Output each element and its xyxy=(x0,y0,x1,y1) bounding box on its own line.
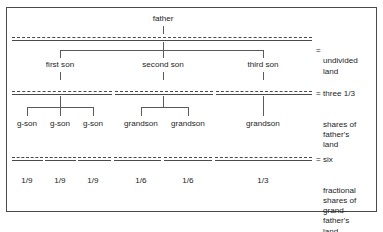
connector-third-son-down xyxy=(263,72,264,80)
connector-second-son-to-bar xyxy=(163,96,164,107)
inheritance-land-division-diagram: father = undivided land first son second… xyxy=(0,0,383,232)
band-solid-rule xyxy=(216,94,312,95)
share-value-4: 1/6 xyxy=(135,176,146,186)
connector-first-son-to-bar xyxy=(60,96,61,107)
connector-first-son-up xyxy=(60,50,61,58)
connector-second-son-up xyxy=(163,50,164,58)
division-band-third-3 xyxy=(216,91,312,95)
band-solid-rule xyxy=(115,94,213,95)
legend-undivided-text: undivided land xyxy=(323,56,380,76)
division-band-third-2 xyxy=(115,91,213,95)
connector-grandson-4-up xyxy=(141,107,142,116)
band-solid-rule xyxy=(215,160,312,161)
band-dashed-rule xyxy=(78,157,111,158)
node-second-son: second son xyxy=(142,60,183,70)
share-value-3: 1/9 xyxy=(87,176,98,186)
connector-third-son-to-grandson xyxy=(263,96,264,116)
division-band-share-5 xyxy=(164,157,212,161)
node-first-son: first son xyxy=(46,60,74,70)
band-solid-rule xyxy=(12,40,312,41)
share-value-5: 1/6 xyxy=(182,176,193,186)
band-solid-rule xyxy=(45,160,76,161)
connector-third-son-up xyxy=(263,50,264,58)
node-grandson-6: grandson xyxy=(246,119,280,129)
legend-equals-sign: = xyxy=(316,89,321,99)
band-dashed-rule xyxy=(12,157,43,158)
node-grandson-5: grandson xyxy=(171,119,205,129)
connector-second-son-down xyxy=(163,72,164,80)
connector-sons-bar xyxy=(60,50,263,51)
connector-first-son-down xyxy=(60,72,61,80)
division-band-undivided xyxy=(12,37,312,41)
node-gson-2: g-son xyxy=(50,119,70,129)
share-value-1: 1/9 xyxy=(21,176,32,186)
node-gson-3: g-son xyxy=(83,119,103,129)
band-solid-rule xyxy=(78,160,111,161)
connector-gson-3-up xyxy=(93,107,94,116)
connector-father-down xyxy=(163,26,164,34)
division-band-share-1 xyxy=(12,157,43,161)
division-band-third-1 xyxy=(12,91,112,95)
division-band-share-4 xyxy=(114,157,161,161)
connector-grandson-5-up xyxy=(188,107,189,116)
connector-grandsons-bar xyxy=(141,107,188,108)
connector-father-to-bar xyxy=(163,42,164,50)
band-solid-rule xyxy=(114,160,161,161)
connector-gson-2-up xyxy=(60,107,61,116)
band-solid-rule xyxy=(12,160,43,161)
node-third-son: third son xyxy=(247,60,278,70)
legend-equals-sign: = xyxy=(316,155,321,165)
band-dashed-rule xyxy=(12,37,312,38)
band-dashed-rule xyxy=(215,157,312,158)
legend-thirds-prefix: three 1/3 xyxy=(323,89,380,99)
share-value-6: 1/3 xyxy=(257,176,268,186)
share-value-2: 1/9 xyxy=(54,176,65,186)
node-father: father xyxy=(153,14,174,24)
band-dashed-rule xyxy=(115,91,213,92)
division-band-share-6 xyxy=(215,157,312,161)
band-dashed-rule xyxy=(114,157,161,158)
band-solid-rule xyxy=(164,160,212,161)
legend-fractional: six = fractional shares of grand- father… xyxy=(316,145,380,232)
band-dashed-rule xyxy=(12,91,112,92)
legend-fractional-prefix: six xyxy=(323,155,380,165)
band-solid-rule xyxy=(12,94,112,95)
band-dashed-rule xyxy=(216,91,312,92)
node-gson-1: g-son xyxy=(17,119,37,129)
division-band-share-2 xyxy=(45,157,76,161)
division-band-share-3 xyxy=(78,157,111,161)
band-dashed-rule xyxy=(164,157,212,158)
node-grandson-4: grandson xyxy=(124,119,158,129)
connector-gson-1-up xyxy=(27,107,28,116)
legend-fractional-text: fractional shares of grand- father's lan… xyxy=(323,186,380,232)
band-dashed-rule xyxy=(45,157,76,158)
legend-equals-sign: = xyxy=(316,46,321,56)
